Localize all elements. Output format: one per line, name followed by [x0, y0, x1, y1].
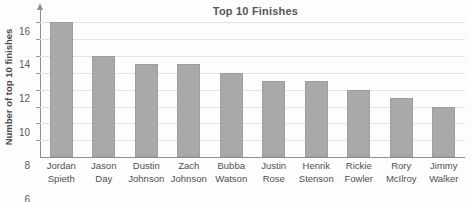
bar	[177, 64, 200, 157]
y-axis-tick-label: 6	[24, 194, 30, 202]
y-axis-tick-label: 16	[19, 25, 30, 36]
bar	[220, 73, 243, 157]
x-axis-labels-group: JordanSpiethJasonDayDustinJohnsonZachJoh…	[40, 160, 465, 200]
y-axis-tick-label: 10	[19, 126, 30, 137]
y-axis-arrow-icon	[37, 3, 43, 10]
bar	[432, 107, 455, 157]
bar	[305, 81, 328, 157]
y-axis-tick-mark: 14	[36, 39, 40, 40]
bar	[50, 22, 73, 157]
y-axis-tick-mark: 6	[36, 107, 40, 108]
y-axis-tick-mark: 2	[36, 140, 40, 141]
y-axis-line	[40, 8, 41, 157]
bar	[92, 56, 115, 157]
y-axis-title: Number of top 10 finishes	[3, 28, 14, 145]
x-axis-label-line: Walker	[419, 173, 470, 186]
bar	[135, 64, 158, 157]
y-axis-title-container: Number of top 10 finishes	[0, 14, 16, 159]
y-axis-tick-mark: 12	[36, 56, 40, 57]
bar	[262, 81, 285, 157]
x-axis-label-line: Jimmy	[419, 160, 470, 173]
bar	[347, 90, 370, 157]
y-axis-tick-mark: 4	[36, 123, 40, 124]
gridline	[40, 22, 465, 23]
y-axis-tick-mark: 8	[36, 90, 40, 91]
bar-chart: Top 10 Finishes Number of top 10 finishe…	[0, 0, 471, 202]
x-axis-line	[40, 157, 465, 158]
plot-area: 246810121416	[40, 14, 465, 157]
x-axis-label: JimmyWalker	[419, 160, 470, 185]
gridline	[40, 39, 465, 40]
y-axis-tick-label: 14	[19, 59, 30, 70]
y-axis-tick-label: 12	[19, 93, 30, 104]
y-axis-tick-label: 8	[24, 160, 30, 171]
y-axis-tick-mark: 10	[36, 73, 40, 74]
bar	[390, 98, 413, 157]
y-axis-tick-mark: 16	[36, 22, 40, 23]
